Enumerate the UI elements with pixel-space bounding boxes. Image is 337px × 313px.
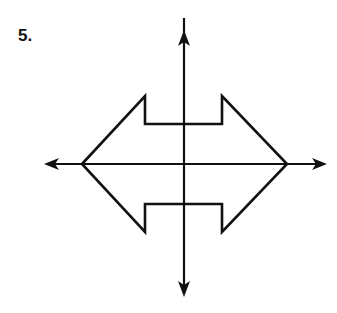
coordinate-diagram: [0, 0, 337, 313]
